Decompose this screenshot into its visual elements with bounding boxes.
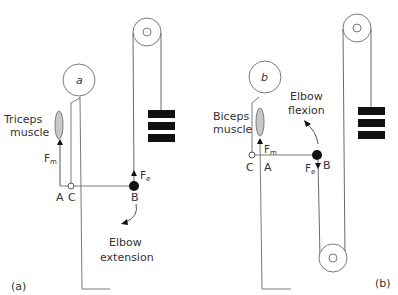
point-b-label-b: B — [323, 159, 331, 172]
load-point-b-b — [312, 150, 322, 160]
external-force-label-b: Fe — [305, 162, 315, 176]
flexion-arrow — [307, 124, 318, 144]
upper-arm-a — [71, 97, 80, 186]
weight-stack-a — [148, 110, 175, 142]
weight-stack-b — [358, 107, 385, 139]
point-c-label-b: C — [246, 161, 254, 174]
muscle-label-b-1: Biceps — [213, 110, 249, 123]
point-a-label-b: A — [264, 161, 272, 174]
joint-c-b — [249, 152, 255, 158]
rope-a-left — [133, 33, 134, 183]
point-a-label-a: A — [56, 191, 64, 204]
shoulder-joint-a: a — [63, 64, 95, 96]
muscle-label-b-2: muscle — [213, 123, 253, 136]
external-force-label-a: Fe — [140, 169, 150, 183]
point-b-label-a: B — [131, 191, 139, 204]
shoulder-joint-b: b — [249, 61, 281, 93]
muscle-label-a-2: muscle — [10, 126, 50, 139]
elbow-lever-diagram: a Triceps muscle Fm Fe A C B Elbow exten… — [0, 0, 398, 295]
biceps-muscle — [256, 108, 264, 136]
extension-arrow — [126, 204, 137, 222]
pulley-top-a — [133, 18, 161, 46]
panel-label-b: (b) — [375, 277, 391, 290]
motion-label-a-1: Elbow — [109, 236, 142, 249]
panel-label-a: (a) — [11, 280, 26, 293]
muscle-force-label-a: Fm — [44, 152, 57, 166]
point-c-label-a: C — [68, 191, 76, 204]
load-point-b-a — [129, 181, 139, 191]
triceps-muscle — [55, 111, 63, 139]
head-label-b: b — [261, 71, 268, 84]
joint-c-a — [68, 183, 74, 189]
motion-label-b-1: Elbow — [290, 90, 323, 103]
panel-a: a Triceps muscle Fm Fe A C B Elbow exten… — [3, 18, 175, 293]
panel-b: b Biceps muscle Fm Fe C A B Elbow flexio… — [213, 14, 391, 290]
muscle-label-a-1: Triceps — [3, 113, 42, 126]
motion-label-b-2: flexion — [288, 104, 325, 117]
motion-label-a-2: extension — [100, 251, 154, 264]
rope-b-down — [318, 160, 320, 258]
rope-b-left — [343, 29, 345, 258]
pulley-top-b — [343, 14, 371, 42]
pulley-bottom-b — [319, 244, 347, 272]
head-label-a: a — [76, 74, 83, 87]
